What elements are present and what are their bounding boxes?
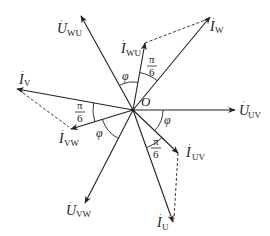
phasor-diagram: O U · WU I · WU I · W I · V I · V bbox=[0, 0, 270, 236]
svg-text:·: · bbox=[159, 209, 162, 219]
label-u-wu: U · WU bbox=[57, 15, 82, 38]
svg-text:WU: WU bbox=[126, 48, 141, 58]
svg-text:6: 6 bbox=[77, 112, 83, 124]
phasor-u-wu bbox=[81, 16, 133, 110]
arc-phi-left bbox=[102, 119, 118, 138]
svg-text:·: · bbox=[21, 66, 24, 76]
label-i-u: I · U bbox=[156, 209, 169, 232]
angle-phi-top: φ bbox=[122, 69, 129, 83]
svg-text:π: π bbox=[149, 53, 155, 65]
svg-text:π: π bbox=[77, 99, 83, 111]
angle-pi6-top: π 6 bbox=[147, 53, 157, 78]
svg-text:·: · bbox=[188, 139, 191, 149]
label-i-w: I · W bbox=[209, 13, 224, 35]
label-i-wu: I · WU bbox=[120, 35, 141, 58]
label-i-v: I · V bbox=[18, 66, 31, 88]
svg-text:6: 6 bbox=[153, 148, 159, 160]
svg-text:WU: WU bbox=[67, 28, 82, 38]
dashed-iv-to-ivw bbox=[19, 90, 69, 127]
angle-pi6-left: π 6 bbox=[75, 99, 85, 124]
phasor-i-v bbox=[17, 89, 133, 110]
svg-text:VW: VW bbox=[76, 209, 91, 219]
angle-labels: φ φ φ π 6 π 6 π 6 bbox=[75, 53, 171, 160]
angle-pi6-right: π 6 bbox=[151, 135, 161, 160]
origin-dot bbox=[131, 108, 134, 111]
origin-label: O bbox=[141, 94, 151, 109]
phasor-labels: U · WU I · WU I · W I · V I · VW U bbox=[18, 13, 261, 232]
dashed-construction-lines bbox=[19, 19, 208, 219]
svg-text:U: U bbox=[162, 222, 169, 232]
phasor-u-vw bbox=[85, 110, 133, 203]
svg-text:UV: UV bbox=[248, 110, 261, 120]
arc-phi-right bbox=[155, 110, 163, 131]
svg-text:VW: VW bbox=[64, 138, 79, 148]
label-i-vw: I · VW bbox=[58, 125, 79, 148]
arc-pi6-left bbox=[93, 103, 95, 122]
svg-text:·: · bbox=[212, 13, 215, 23]
label-u-vw: U · VW bbox=[66, 197, 91, 219]
svg-text:·: · bbox=[122, 35, 125, 45]
dot-accent: · bbox=[60, 15, 63, 25]
svg-text:·: · bbox=[61, 125, 64, 135]
svg-text:UV: UV bbox=[192, 152, 205, 162]
svg-text:π: π bbox=[153, 135, 159, 147]
svg-text:·: · bbox=[242, 96, 245, 106]
angle-phi-right: φ bbox=[164, 113, 171, 127]
svg-text:W: W bbox=[215, 25, 224, 35]
svg-text:V: V bbox=[24, 78, 31, 88]
dashed-iuv-to-iu bbox=[174, 153, 178, 219]
label-i-uv: I · UV bbox=[185, 139, 205, 162]
phasor-arrows bbox=[17, 16, 235, 222]
label-u-uv: U · UV bbox=[239, 96, 261, 120]
svg-text:·: · bbox=[69, 197, 72, 207]
angle-phi-left: φ bbox=[96, 126, 103, 140]
svg-text:6: 6 bbox=[149, 66, 155, 78]
